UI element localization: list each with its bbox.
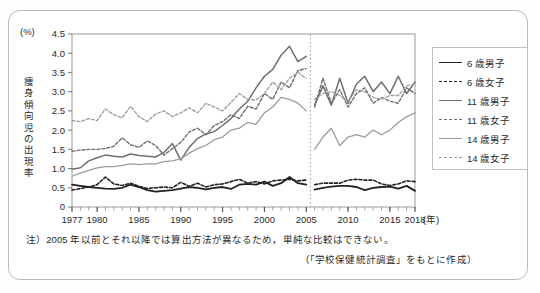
y-tick-label: 0.5: [52, 182, 65, 193]
legend-line-swatch: [439, 119, 462, 120]
y-tick-label: 4.5: [52, 28, 65, 39]
x-tick-label: 2015: [379, 214, 400, 225]
series-line-pre2005: [72, 97, 306, 176]
y-tick-label: 0: [60, 201, 65, 212]
series-11歳女子: [72, 69, 415, 156]
series-14歳男子: [72, 97, 415, 176]
figure-note: 注）2005 年以前とそれ以降では算出方法が異なるため，単純な比較はできない。: [26, 232, 394, 246]
chart-legend: 6 歳男子6 歳女子11 歳男子11 歳女子14 歳男子14 歳女子: [432, 47, 528, 170]
legend-item-label: 6 歳男子: [467, 56, 505, 70]
x-tick-label: 1980: [87, 214, 108, 225]
legend-item[interactable]: 11 歳男子: [439, 91, 527, 110]
legend-line-swatch: [439, 157, 462, 158]
legend-line-swatch: [439, 100, 462, 101]
x-tick-label: 1977: [61, 214, 82, 225]
y-tick-label: 1.5: [52, 144, 65, 155]
y-tick-label: 1.0: [52, 163, 65, 174]
y-tick-label: 4.0: [52, 48, 65, 59]
figure-source: （「学校保健統計調査」をもとに作成）: [300, 252, 477, 266]
x-tick-label: 1995: [212, 214, 233, 225]
figure-page: (%) 痩身傾向児の出現率 00.51.01.52.02.53.03.54.04…: [0, 0, 540, 293]
x-tick-label: 1985: [128, 214, 149, 225]
legend-item[interactable]: 14 歳女子: [439, 148, 527, 167]
plot-frame: [72, 34, 415, 207]
x-tick-label: 1990: [170, 214, 191, 225]
series-11歳男子: [72, 46, 415, 169]
series-line-pre2005: [72, 69, 306, 156]
series-line-pre2005: [72, 72, 306, 121]
legend-item[interactable]: 11 歳女子: [439, 110, 527, 129]
series-14歳女子: [72, 72, 415, 121]
y-tick-label: 2.0: [52, 125, 65, 136]
x-tick-label: 2010: [338, 214, 359, 225]
legend-item-label: 6 歳女子: [467, 75, 505, 89]
y-tick-label: 3.5: [52, 67, 65, 78]
legend-item-label: 14 歳女子: [467, 151, 510, 165]
series-line-post2006: [315, 186, 415, 191]
x-tick-label: 2000: [254, 214, 275, 225]
y-tick-label: 2.5: [52, 105, 65, 116]
legend-item-label: 11 歳男子: [467, 94, 510, 108]
legend-item-label: 14 歳男子: [467, 132, 510, 146]
legend-line-swatch: [439, 138, 462, 139]
legend-item[interactable]: 6 歳男子: [439, 53, 527, 72]
series-line-post2006: [315, 113, 415, 150]
x-tick-label: 2005: [296, 214, 317, 225]
legend-item-label: 11 歳女子: [467, 113, 510, 127]
legend-line-swatch: [439, 62, 462, 63]
series-line-post2006: [315, 179, 415, 185]
x-axis-unit-label: (年): [423, 214, 439, 225]
legend-item[interactable]: 6 歳女子: [439, 72, 527, 91]
y-tick-label: 3.0: [52, 86, 65, 97]
legend-line-swatch: [439, 81, 462, 82]
legend-item[interactable]: 14 歳男子: [439, 129, 527, 148]
